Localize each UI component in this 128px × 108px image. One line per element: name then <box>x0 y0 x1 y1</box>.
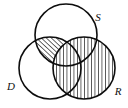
set-label-r: R <box>114 85 122 97</box>
set-label-d: D <box>6 80 15 92</box>
venn-diagram-canvas: S D R <box>0 0 128 108</box>
venn-diagram-figure: S D R <box>0 0 128 108</box>
set-label-s: S <box>95 11 101 23</box>
